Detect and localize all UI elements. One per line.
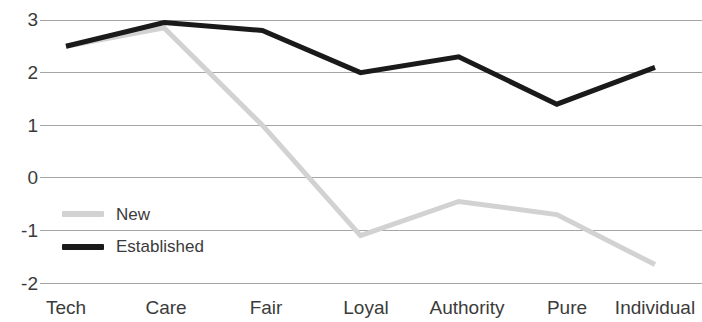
y-tick-label-2: 2 bbox=[4, 63, 38, 82]
x-tick-label-authority: Authority bbox=[430, 298, 505, 317]
x-tick-label-fair: Fair bbox=[250, 298, 283, 317]
x-tick-label-loyal: Loyal bbox=[343, 298, 388, 317]
series-line-established bbox=[66, 23, 655, 105]
y-tick-label-3: 3 bbox=[4, 10, 38, 29]
data-series-group bbox=[66, 23, 655, 265]
legend-swatch-new bbox=[62, 211, 104, 217]
y-tick-label-0: 0 bbox=[4, 168, 38, 187]
x-tick-label-pure: Pure bbox=[547, 298, 587, 317]
chart-plot-area bbox=[0, 0, 702, 322]
line-chart: 3 2 1 0 -1 -2 Tech Care Fair Loyal Autho… bbox=[0, 0, 702, 322]
y-tick-label-1: 1 bbox=[4, 116, 38, 135]
legend-label-established: Established bbox=[116, 238, 204, 255]
x-tick-label-individual: Individual bbox=[615, 298, 695, 317]
x-tick-label-tech: Tech bbox=[46, 298, 86, 317]
y-tick-label-neg1: -1 bbox=[4, 221, 38, 240]
y-tick-label-neg2: -2 bbox=[4, 274, 38, 293]
x-tick-label-care: Care bbox=[145, 298, 186, 317]
legend-swatch-established bbox=[62, 244, 104, 250]
series-line-new bbox=[66, 28, 655, 265]
legend-label-new: New bbox=[116, 206, 150, 223]
